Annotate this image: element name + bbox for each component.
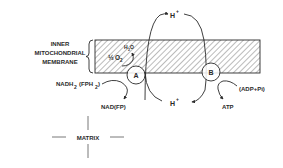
nadh-text: NADH	[56, 81, 73, 87]
fph-close: )	[98, 81, 100, 87]
oxygen-fraction: ½	[108, 54, 114, 61]
chemiosmotic-diagram: INNER MITOCHONDRIAL MEMBRANE H + H + A B…	[0, 0, 283, 168]
atp-label: ATP	[222, 104, 234, 110]
proton-top-label: H	[170, 12, 175, 19]
adp-to-atp-arrow	[218, 81, 237, 99]
adp-label: (ADP+Pi)	[239, 86, 265, 92]
nad-label: NAD(FP)	[101, 104, 126, 110]
proton-bottom-charge: +	[176, 96, 179, 102]
proton-loop-bottom-left	[145, 72, 162, 101]
membrane-label: INNER MITOCHONDRIAL MEMBRANE	[35, 41, 86, 65]
water-o: O	[130, 44, 134, 50]
membrane-label-line3: MEMBRANE	[42, 59, 77, 65]
membrane-label-line2: MITOCHONDRIAL	[35, 50, 86, 56]
nadh-arrow	[102, 80, 127, 99]
matrix-label: MATRIX	[77, 135, 100, 141]
proton-top-charge: +	[176, 8, 179, 14]
nadh-subscript: 2	[74, 84, 77, 90]
complex-b-label: B	[208, 69, 213, 76]
fph-text: (FPH	[79, 81, 93, 87]
complex-a-label: A	[133, 72, 138, 79]
brace-icon	[86, 40, 93, 73]
membrane-label-line1: INNER	[51, 41, 70, 47]
matrix-marker: MATRIX	[52, 116, 124, 158]
proton-bottom-label: H	[170, 100, 175, 107]
nadh-label: NADH 2 (FPH 2 )	[56, 81, 100, 90]
